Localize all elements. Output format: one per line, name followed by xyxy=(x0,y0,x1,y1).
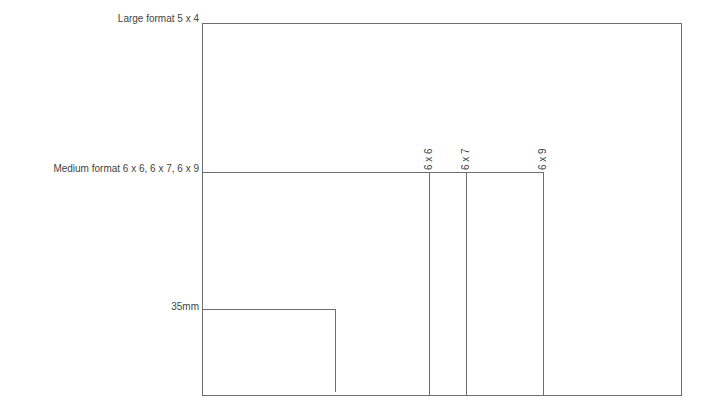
35mm-label: 35mm xyxy=(171,302,199,312)
large-format-top-edge xyxy=(202,23,682,24)
medium-6x9-label: 6 x 9 xyxy=(538,148,548,170)
medium-6x7-edge xyxy=(466,172,467,395)
35mm-top-edge xyxy=(202,309,336,310)
medium-6x7-label: 6 x 7 xyxy=(461,148,471,170)
large-format-bottom-edge xyxy=(202,395,682,396)
large-format-left-edge xyxy=(202,23,203,396)
large-format-label: Large format 5 x 4 xyxy=(118,14,199,24)
35mm-right-edge xyxy=(335,309,336,392)
medium-6x9-edge xyxy=(543,172,544,395)
medium-format-label: Medium format 6 x 6, 6 x 7, 6 x 9 xyxy=(53,164,199,174)
medium-6x6-edge xyxy=(429,172,430,395)
medium-6x6-label: 6 x 6 xyxy=(424,148,434,170)
large-format-right-edge xyxy=(681,23,682,396)
medium-format-top-edge xyxy=(202,172,544,173)
